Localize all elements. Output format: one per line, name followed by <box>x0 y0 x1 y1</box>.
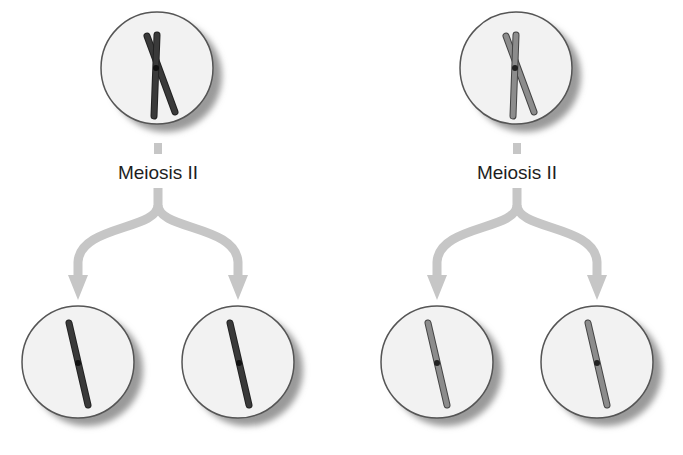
arrowhead-icon <box>228 275 248 300</box>
centromere <box>594 360 600 366</box>
daughter-cell-left-1 <box>22 306 143 426</box>
arrowhead-icon <box>587 275 607 300</box>
stage-label-left: Meiosis II <box>118 162 198 183</box>
panel-left: Meiosis II <box>22 12 303 426</box>
stage-label-right: Meiosis II <box>477 162 557 183</box>
centromere <box>75 360 81 366</box>
arrow-stub <box>154 143 162 154</box>
centromere <box>236 360 242 366</box>
parent-cell-left <box>101 12 222 132</box>
panel-right: Meiosis II <box>381 12 662 426</box>
centromere <box>153 65 159 71</box>
meiosis-ii-diagram: Meiosis II <box>0 0 683 455</box>
arrowhead-icon <box>427 275 447 300</box>
arrow-stub <box>513 143 521 154</box>
daughter-cell-right-1 <box>381 306 502 426</box>
daughter-cell-left-2 <box>182 306 303 426</box>
branch-arrows-right <box>437 188 597 278</box>
centromere <box>434 360 440 366</box>
daughter-cell-right-2 <box>541 306 662 426</box>
arrowhead-icon <box>68 275 88 300</box>
branch-arrows-left <box>78 188 238 278</box>
parent-cell-right <box>460 12 581 132</box>
centromere <box>512 65 518 71</box>
